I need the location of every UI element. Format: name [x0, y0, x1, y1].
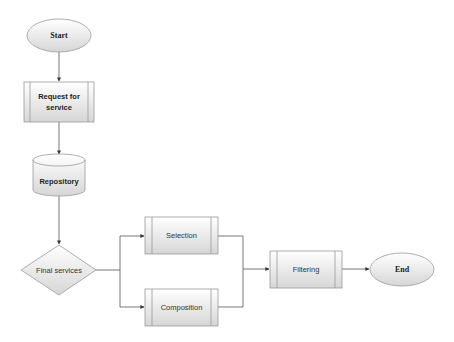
repository-label: Repository: [39, 177, 79, 186]
node-final-services[interactable]: Final services: [21, 245, 96, 295]
end-label: End: [395, 265, 410, 274]
repository-cylinder: [33, 154, 85, 196]
start-label: Start: [50, 31, 68, 40]
request-label-line2: service: [46, 103, 72, 112]
node-start[interactable]: Start: [27, 19, 91, 52]
final-services-label: Final services: [36, 266, 82, 275]
node-end[interactable]: End: [370, 253, 434, 286]
edge-final-composition: [120, 270, 144, 307]
selection-label: Selection: [166, 231, 197, 240]
node-selection[interactable]: Selection: [145, 217, 218, 254]
composition-label: Composition: [161, 303, 203, 312]
node-composition[interactable]: Composition: [145, 289, 218, 326]
node-request-for-service[interactable]: Request for service: [24, 82, 94, 122]
node-repository[interactable]: Repository: [33, 154, 85, 196]
request-box: [24, 82, 94, 122]
edge-selection-merge: [218, 236, 243, 307]
filtering-label: Filtering: [293, 265, 320, 274]
request-label-line1: Request for: [38, 92, 80, 101]
node-filtering[interactable]: Filtering: [270, 251, 342, 288]
edge-final-selection: [120, 236, 144, 270]
flowchart-canvas: Start Request for service Repository Fin…: [0, 0, 454, 342]
